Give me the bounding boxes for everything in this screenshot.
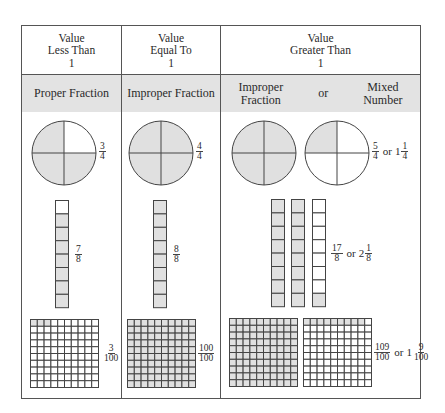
subheader-line: Fraction xyxy=(241,94,281,107)
subheader-improper-fraction: Improper Fraction xyxy=(122,75,220,112)
grid-nine-hundredths xyxy=(303,318,372,388)
subheader-mixed: Mixed Number xyxy=(363,81,402,106)
header-less-than: Value Less Than 1 xyxy=(22,26,121,75)
grid-hundred-hundredths xyxy=(127,319,196,389)
or-text: or xyxy=(347,249,356,258)
label-three-quarters: 34 xyxy=(98,142,107,161)
label-three-hundredths: 3100 xyxy=(102,344,120,363)
denominator: 100 xyxy=(413,353,429,362)
label-seventeen-eighths: 178 or 2 18 xyxy=(330,244,373,263)
label-four-quarters: 44 xyxy=(195,142,204,161)
header-line: Equal To xyxy=(122,44,220,57)
subheader-proper-fraction: Proper Fraction xyxy=(22,75,121,112)
header-line: Less Than xyxy=(22,44,121,57)
subheader-line: Improper xyxy=(239,81,284,94)
bar-full-1 xyxy=(271,199,287,309)
circle-three-quarters xyxy=(29,118,99,188)
header-line: Value xyxy=(122,32,220,45)
subheader-improper: Improper Fraction xyxy=(239,81,284,106)
denominator: 100 xyxy=(374,353,390,362)
label-seven-eighths: 78 xyxy=(74,245,83,264)
whole-number: 1 xyxy=(406,348,412,357)
denominator: 8 xyxy=(173,255,180,264)
bar-full-2 xyxy=(291,199,307,309)
bar-seven-eighths xyxy=(55,200,71,310)
denominator: 100 xyxy=(103,354,119,363)
subheader-improper-or-mixed: Improper Fraction or Mixed Number xyxy=(221,75,420,112)
header-line: 1 xyxy=(122,57,220,70)
header-equal-to: Value Equal To 1 xyxy=(122,26,220,75)
label-hundred-hundredths: 100100 xyxy=(197,344,215,363)
circle-one-quarter xyxy=(302,118,372,188)
subheader-line: Number xyxy=(363,94,402,107)
denominator: 4 xyxy=(196,152,203,161)
whole-number: 1 xyxy=(395,147,401,156)
subheader-label: Proper Fraction xyxy=(34,86,109,101)
header-line: 1 xyxy=(22,57,121,70)
bar-eight-eighths xyxy=(153,200,169,310)
denominator: 4 xyxy=(99,152,106,161)
circle-whole xyxy=(229,118,299,188)
denominator: 4 xyxy=(372,152,379,161)
header-greater-than: Value Greater Than 1 xyxy=(221,26,420,75)
subheader-or: or xyxy=(318,87,328,100)
whole-number: 2 xyxy=(359,249,365,258)
header-line: 1 xyxy=(221,57,420,70)
denominator: 100 xyxy=(198,354,214,363)
header-line: Value xyxy=(221,32,420,45)
or-text: or xyxy=(394,348,403,357)
label-five-quarters: 54 or 1 14 xyxy=(371,142,409,161)
label-hundred-nine-hundredths: 109100 or 1 9100 xyxy=(373,343,430,362)
fraction-comparison-table: Value Less Than 1 Value Equal To 1 Value… xyxy=(21,25,421,399)
subheader-line: Mixed xyxy=(367,81,398,94)
denominator: 4 xyxy=(401,152,408,161)
denominator: 8 xyxy=(75,255,82,264)
grid-whole xyxy=(229,318,298,388)
circle-four-quarters xyxy=(126,118,196,188)
header-line: Value xyxy=(22,32,121,45)
denominator: 8 xyxy=(365,254,372,263)
denominator: 8 xyxy=(333,254,340,263)
grid-three-hundredths xyxy=(30,319,99,389)
or-text: or xyxy=(383,147,392,156)
subheader-label: Improper Fraction xyxy=(127,86,215,101)
label-eight-eighths: 88 xyxy=(172,245,181,264)
header-line: Greater Than xyxy=(221,44,420,57)
bar-one-eighth xyxy=(312,199,328,309)
